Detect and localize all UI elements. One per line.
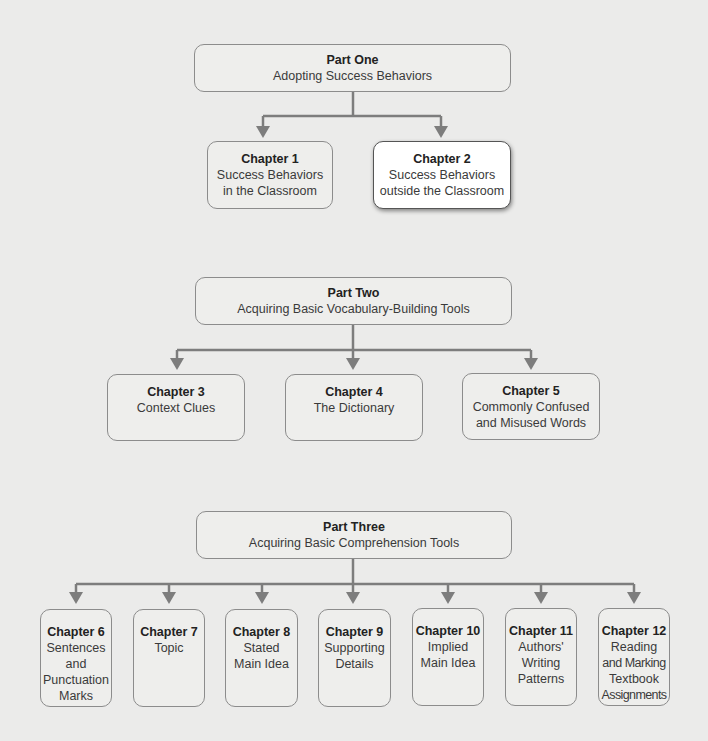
chapter-line: outside the Classroom <box>380 183 504 199</box>
chapter-line: Topic <box>154 640 183 656</box>
chapter-line: Authors' <box>518 639 563 655</box>
chapter-line: Textbook <box>609 671 659 687</box>
chapter-title: Chapter 3 <box>147 384 205 400</box>
part-title: Part Three <box>323 519 385 535</box>
chapter-1-box: Chapter 1 Success Behaviors in the Class… <box>207 141 333 209</box>
chapter-line: and <box>66 656 87 672</box>
part-one-box: Part One Adopting Success Behaviors <box>194 44 511 92</box>
chapter-line: Stated <box>243 640 279 656</box>
chapter-line: Punctuation <box>43 672 109 688</box>
chapter-title: Chapter 8 <box>233 624 291 640</box>
chapter-line: Writing <box>522 655 561 671</box>
chapter-9-box: Chapter 9 Supporting Details <box>318 609 391 707</box>
chapter-line: Context Clues <box>137 400 216 416</box>
chapter-line: Supporting <box>324 640 384 656</box>
chapter-line: Main Idea <box>234 656 289 672</box>
chapter-line: Marks <box>59 688 93 704</box>
chapter-line: Sentences <box>46 640 105 656</box>
part-subtitle: Acquiring Basic Comprehension Tools <box>249 535 459 551</box>
chapter-7-box: Chapter 7 Topic <box>133 609 205 707</box>
chapter-line: Success Behaviors <box>389 167 495 183</box>
chapter-line: Main Idea <box>421 655 476 671</box>
chapter-8-box: Chapter 8 Stated Main Idea <box>225 609 298 707</box>
part-subtitle: Adopting Success Behaviors <box>273 68 432 84</box>
part-three-box: Part Three Acquiring Basic Comprehension… <box>196 511 512 559</box>
chapter-line: Assignments <box>602 687 667 703</box>
chapter-title: Chapter 9 <box>326 624 384 640</box>
chapter-10-box: Chapter 10 Implied Main Idea <box>412 608 484 706</box>
part-two-box: Part Two Acquiring Basic Vocabulary-Buil… <box>195 277 512 325</box>
chapter-line: Implied <box>428 639 468 655</box>
chapter-3-box: Chapter 3 Context Clues <box>107 374 245 441</box>
part-title: Part Two <box>328 285 380 301</box>
chapter-line: Commonly Confused <box>473 399 590 415</box>
chapter-title: Chapter 10 <box>416 623 481 639</box>
chapter-11-box: Chapter 11 Authors' Writing Patterns <box>505 608 577 706</box>
chapter-4-box: Chapter 4 The Dictionary <box>285 374 423 441</box>
chapter-line: in the Classroom <box>223 183 317 199</box>
chapter-line: and Marking <box>602 655 665 671</box>
chapter-title: Chapter 6 <box>47 624 105 640</box>
chapter-title: Chapter 2 <box>413 151 471 167</box>
chapter-line: Reading <box>611 639 658 655</box>
chapter-title: Chapter 1 <box>241 151 299 167</box>
chapter-title: Chapter 7 <box>140 624 198 640</box>
chapter-5-box: Chapter 5 Commonly Confused and Misused … <box>462 373 600 440</box>
part-subtitle: Acquiring Basic Vocabulary-Building Tool… <box>237 301 470 317</box>
chapter-title: Chapter 12 <box>602 623 667 639</box>
chapter-line: Details <box>335 656 373 672</box>
chapter-title: Chapter 4 <box>325 384 383 400</box>
chapter-line: Success Behaviors <box>217 167 323 183</box>
chapter-line: and Misused Words <box>476 415 586 431</box>
chapter-12-box: Chapter 12 Reading and Marking Textbook … <box>598 608 670 706</box>
part-title: Part One <box>326 52 378 68</box>
chapter-2-box: Chapter 2 Success Behaviors outside the … <box>373 141 511 209</box>
chapter-title: Chapter 5 <box>502 383 560 399</box>
chapter-line: Patterns <box>518 671 565 687</box>
chapter-6-box: Chapter 6 Sentences and Punctuation Mark… <box>40 609 112 707</box>
chapter-title: Chapter 11 <box>509 623 573 639</box>
chapter-line: The Dictionary <box>314 400 395 416</box>
